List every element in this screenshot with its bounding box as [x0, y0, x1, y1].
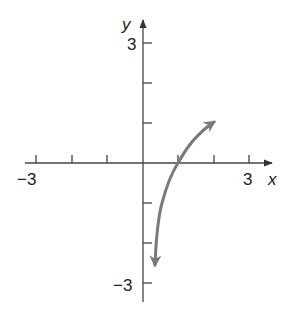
function-curve [155, 122, 214, 265]
x-axis-label: x [267, 170, 277, 189]
graph: y 3 −3 3 x −3 [0, 0, 288, 312]
y-max-label: 3 [127, 35, 136, 54]
y-axis-label: y [121, 15, 132, 34]
y-min-label: −3 [113, 276, 132, 295]
x-min-label: −3 [17, 170, 36, 189]
x-max-label: 3 [243, 170, 252, 189]
